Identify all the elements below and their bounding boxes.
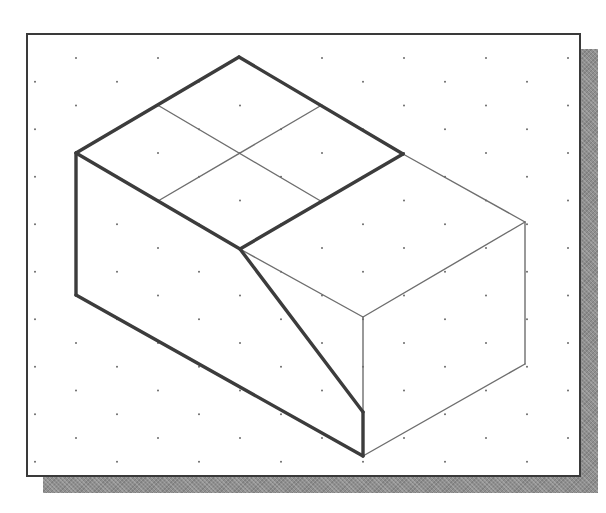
thin-edges bbox=[158, 105, 526, 456]
grid-dot bbox=[362, 223, 364, 225]
grid-dot bbox=[403, 200, 405, 202]
grid-dot bbox=[321, 342, 323, 344]
grid-dot bbox=[567, 390, 569, 392]
grid-dot bbox=[526, 128, 528, 130]
grid-dot bbox=[526, 176, 528, 178]
grid-dot bbox=[157, 295, 159, 297]
grid-dot bbox=[485, 152, 487, 154]
grid-dot bbox=[116, 461, 118, 463]
grid-dot bbox=[567, 295, 569, 297]
grid-dot bbox=[444, 223, 446, 225]
grid-dot bbox=[157, 152, 159, 154]
grid-dot bbox=[567, 57, 569, 59]
grid-dot bbox=[116, 366, 118, 368]
grid-dot bbox=[403, 342, 405, 344]
grid-dot bbox=[403, 437, 405, 439]
grid-dot bbox=[34, 176, 36, 178]
grid-dot bbox=[157, 247, 159, 249]
grid-dot bbox=[485, 295, 487, 297]
grid-dot bbox=[239, 437, 241, 439]
grid-dot bbox=[116, 223, 118, 225]
grid-dot bbox=[198, 413, 200, 415]
isometric-dot-grid bbox=[34, 57, 569, 463]
grid-dot bbox=[34, 461, 36, 463]
grid-dot bbox=[403, 247, 405, 249]
grid-dot bbox=[444, 413, 446, 415]
grid-dot bbox=[280, 318, 282, 320]
grid-dot bbox=[321, 437, 323, 439]
thin-edge bbox=[363, 364, 525, 456]
grid-dot bbox=[157, 57, 159, 59]
grid-dot bbox=[444, 271, 446, 273]
isometric-drawing bbox=[0, 0, 606, 513]
grid-dot bbox=[75, 57, 77, 59]
grid-dot bbox=[485, 247, 487, 249]
grid-dot bbox=[239, 105, 241, 107]
grid-dot bbox=[239, 390, 241, 392]
grid-dot bbox=[34, 318, 36, 320]
grid-dot bbox=[444, 366, 446, 368]
grid-dot bbox=[34, 81, 36, 83]
grid-dot bbox=[485, 390, 487, 392]
grid-dot bbox=[198, 271, 200, 273]
grid-dot bbox=[157, 390, 159, 392]
grid-dot bbox=[34, 271, 36, 273]
grid-dot bbox=[526, 461, 528, 463]
grid-dot bbox=[526, 413, 528, 415]
grid-dot bbox=[567, 247, 569, 249]
grid-dot bbox=[362, 271, 364, 273]
grid-dot bbox=[526, 366, 528, 368]
grid-dot bbox=[362, 461, 364, 463]
grid-dot bbox=[362, 81, 364, 83]
grid-dot bbox=[526, 271, 528, 273]
grid-dot bbox=[116, 413, 118, 415]
grid-dot bbox=[485, 105, 487, 107]
grid-dot bbox=[444, 318, 446, 320]
grid-dot bbox=[567, 105, 569, 107]
grid-dot bbox=[567, 152, 569, 154]
thin-edge bbox=[240, 249, 363, 317]
grid-dot bbox=[239, 200, 241, 202]
thin-edge bbox=[363, 222, 525, 317]
grid-dot bbox=[34, 128, 36, 130]
grid-dot bbox=[485, 437, 487, 439]
grid-dot bbox=[403, 390, 405, 392]
grid-dot bbox=[321, 152, 323, 154]
thick-edge bbox=[240, 249, 363, 412]
grid-dot bbox=[485, 57, 487, 59]
grid-dot bbox=[444, 128, 446, 130]
thick-edge bbox=[76, 295, 363, 456]
thin-edge bbox=[403, 154, 525, 222]
grid-dot bbox=[403, 57, 405, 59]
grid-dot bbox=[526, 81, 528, 83]
grid-dot bbox=[239, 295, 241, 297]
grid-dot bbox=[75, 437, 77, 439]
grid-dot bbox=[198, 318, 200, 320]
thick-edges bbox=[76, 57, 403, 456]
grid-dot bbox=[485, 342, 487, 344]
grid-dot bbox=[34, 413, 36, 415]
grid-dot bbox=[239, 342, 241, 344]
grid-dot bbox=[403, 295, 405, 297]
grid-dot bbox=[75, 342, 77, 344]
grid-dot bbox=[280, 461, 282, 463]
grid-dot bbox=[157, 437, 159, 439]
grid-dot bbox=[403, 105, 405, 107]
grid-dot bbox=[444, 461, 446, 463]
grid-dot bbox=[198, 461, 200, 463]
grid-dot bbox=[116, 271, 118, 273]
grid-dot bbox=[116, 81, 118, 83]
grid-dot bbox=[444, 81, 446, 83]
grid-dot bbox=[567, 200, 569, 202]
grid-dot bbox=[34, 223, 36, 225]
grid-dot bbox=[567, 437, 569, 439]
grid-dot bbox=[526, 318, 528, 320]
grid-dot bbox=[567, 342, 569, 344]
grid-dot bbox=[34, 366, 36, 368]
grid-dot bbox=[321, 247, 323, 249]
grid-dot bbox=[280, 413, 282, 415]
grid-dot bbox=[526, 223, 528, 225]
grid-dot bbox=[75, 105, 77, 107]
grid-dot bbox=[75, 390, 77, 392]
grid-dot bbox=[321, 390, 323, 392]
